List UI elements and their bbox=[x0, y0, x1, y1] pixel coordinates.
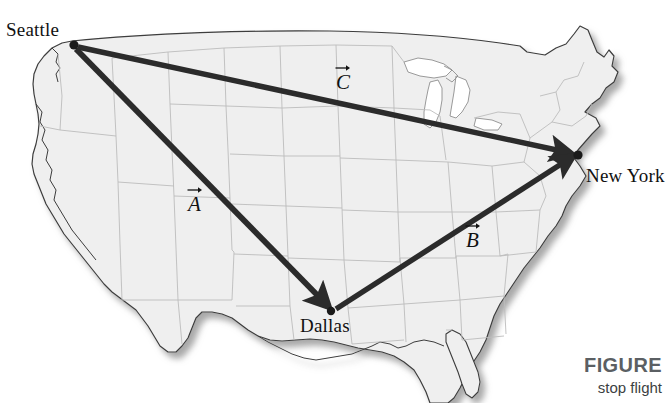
vector-overhead-arrow-icon bbox=[187, 185, 202, 193]
us-map-graphic bbox=[0, 0, 668, 403]
vector-overhead-arrow-icon bbox=[465, 221, 480, 229]
city-dot-dallas bbox=[327, 307, 335, 315]
city-label-new-york: New York bbox=[586, 166, 665, 185]
vector-label-b: B bbox=[466, 228, 479, 251]
vector-label-c: C bbox=[336, 70, 350, 93]
city-label-seattle: Seattle bbox=[6, 20, 59, 39]
figure-caption-title: FIGURE bbox=[584, 354, 662, 376]
figure-caption: FIGURE stop flight bbox=[584, 354, 662, 398]
city-dot-seattle bbox=[69, 40, 78, 49]
map-landmass bbox=[32, 26, 618, 403]
vector-overhead-arrow-icon bbox=[335, 63, 350, 71]
vector-label-b-text: B bbox=[466, 228, 479, 252]
vector-label-a: A bbox=[188, 192, 201, 215]
figure-caption-subtitle: stop flight bbox=[584, 378, 662, 398]
figure-container: Seattle New York Dallas A C B bbox=[0, 0, 668, 403]
city-label-dallas: Dallas bbox=[300, 316, 350, 335]
vector-label-c-text: C bbox=[336, 70, 350, 94]
vector-label-a-text: A bbox=[188, 192, 201, 216]
city-dot-newyork bbox=[573, 150, 582, 159]
us-outline bbox=[32, 26, 618, 403]
